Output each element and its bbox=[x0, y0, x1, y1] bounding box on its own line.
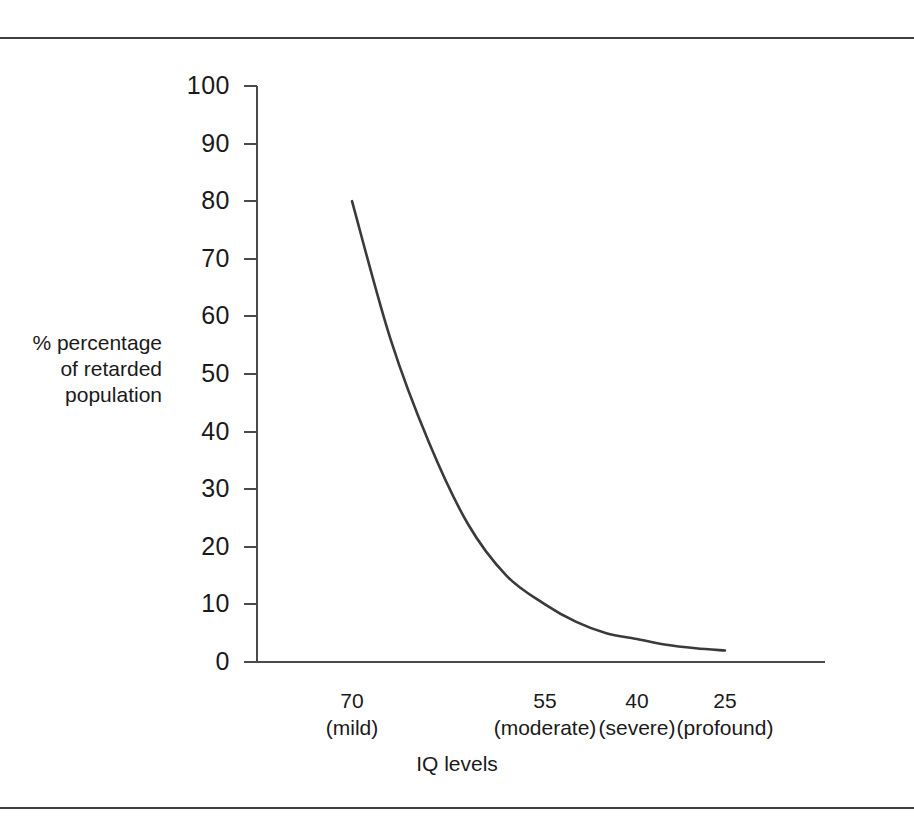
y-axis-tick-label-text: 10 bbox=[174, 591, 230, 616]
y-axis-tick-label-text: 70 bbox=[174, 246, 230, 271]
x-axis-category-term: (mild) bbox=[262, 714, 442, 741]
x-axis-category-value: 25 bbox=[635, 687, 815, 714]
y-axis-tick-label: 20 bbox=[174, 534, 230, 559]
y-axis-tick-label: 0 bbox=[174, 649, 230, 674]
x-axis-category-70: 70(mild) bbox=[262, 687, 442, 741]
figure-frame: 1009080706050403020100 % percentage of r… bbox=[0, 0, 914, 837]
y-axis-tick bbox=[244, 431, 257, 433]
y-axis-tick bbox=[244, 315, 257, 317]
y-axis-tick bbox=[244, 488, 257, 490]
y-axis-title-line-3: population bbox=[30, 382, 162, 408]
y-axis-tick bbox=[244, 546, 257, 548]
x-axis-category-25: 25(profound) bbox=[635, 687, 815, 741]
y-axis-tick-label: 100 bbox=[174, 73, 230, 98]
y-axis-tick-label: 50 bbox=[174, 361, 230, 386]
y-axis-tick-label-text: 80 bbox=[174, 188, 230, 213]
y-axis-tick bbox=[244, 661, 257, 663]
y-axis-tick-label: 40 bbox=[174, 419, 230, 444]
y-axis-tick bbox=[244, 85, 257, 87]
y-axis-tick bbox=[244, 373, 257, 375]
y-axis-tick-label-text: 30 bbox=[174, 476, 230, 501]
y-axis-tick-label-text: 90 bbox=[174, 131, 230, 156]
y-axis-tick-label-text: 50 bbox=[174, 361, 230, 386]
y-axis-tick-label-text: 0 bbox=[174, 649, 230, 674]
y-axis-tick-label: 30 bbox=[174, 476, 230, 501]
plot-area: 1009080706050403020100 % percentage of r… bbox=[0, 0, 914, 837]
x-axis-line bbox=[256, 661, 825, 663]
x-axis-category-value: 70 bbox=[262, 687, 442, 714]
y-axis-tick-label-text: 60 bbox=[174, 303, 230, 328]
y-axis-tick-label-text: 20 bbox=[174, 534, 230, 559]
y-axis-tick-label: 80 bbox=[174, 188, 230, 213]
y-axis-tick-label: 70 bbox=[174, 246, 230, 271]
y-axis-tick-label: 90 bbox=[174, 131, 230, 156]
y-axis-tick-label-text: 100 bbox=[174, 73, 230, 98]
y-axis-tick bbox=[244, 200, 257, 202]
y-axis-title-line-2: of retarded bbox=[30, 356, 162, 382]
y-axis-tick-label-text: 40 bbox=[174, 419, 230, 444]
y-axis-tick bbox=[244, 258, 257, 260]
y-axis-tick-label: 10 bbox=[174, 591, 230, 616]
y-axis-title: % percentage of retarded population bbox=[30, 330, 162, 408]
y-axis-tick-label: 60 bbox=[174, 303, 230, 328]
x-axis-title: IQ levels bbox=[0, 752, 914, 776]
x-axis-category-term: (profound) bbox=[635, 714, 815, 741]
y-axis-tick bbox=[244, 143, 257, 145]
y-axis-title-line-1: % percentage bbox=[30, 330, 162, 356]
y-axis-tick bbox=[244, 603, 257, 605]
